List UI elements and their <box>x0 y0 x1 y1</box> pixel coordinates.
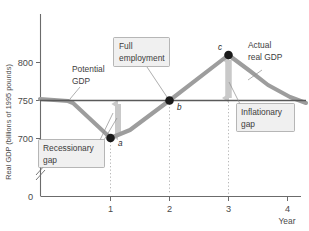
inflationary-gap-label-line1: Inflationary <box>241 107 283 117</box>
x-tick-label-3: 3 <box>226 204 231 214</box>
y-tick-label-800: 800 <box>18 58 33 68</box>
potential-gdp-label-line2: GDP <box>72 76 91 86</box>
x-tick-label-2: 2 <box>167 204 172 214</box>
x-axis-label: Year <box>279 216 296 226</box>
y-tick-label-750: 750 <box>18 96 33 106</box>
data-point-b[interactable] <box>165 96 174 105</box>
origin-label: 0 <box>28 192 33 202</box>
chart-canvas: Real GDP (billions of 1995 pounds) 800 7… <box>0 0 309 231</box>
potential-gdp-leader-line <box>70 87 80 99</box>
data-point-a-label: a <box>118 139 123 148</box>
data-point-c-label: c <box>218 43 222 52</box>
y-axis-label: Real GDP (billions of 1995 pounds) <box>4 64 13 180</box>
gdp-gap-chart: Real GDP (billions of 1995 pounds) 800 7… <box>0 0 309 231</box>
full-employment-label-line2: employment <box>119 53 165 63</box>
actual-real-gdp-label-line2: real GDP <box>248 52 283 62</box>
potential-gdp-label-line1: Potential <box>72 64 105 74</box>
recessionary-gap-label-line2: gap <box>43 155 57 165</box>
x-tick-label-4: 4 <box>285 204 290 214</box>
data-point-b-label: b <box>177 103 182 112</box>
x-tick-label-1: 1 <box>108 204 113 214</box>
data-point-c[interactable] <box>224 51 233 60</box>
data-point-a[interactable] <box>106 134 115 143</box>
y-tick-label-700: 700 <box>18 134 33 144</box>
full-employment-label-line1: Full <box>119 41 133 51</box>
inflationary-gap-label-line2: gap <box>241 119 255 129</box>
recessionary-gap-label-line1: Recessionary <box>43 143 95 153</box>
full-employment-leader-line <box>147 67 167 97</box>
actual-real-gdp-label-line1: Actual <box>248 40 271 50</box>
